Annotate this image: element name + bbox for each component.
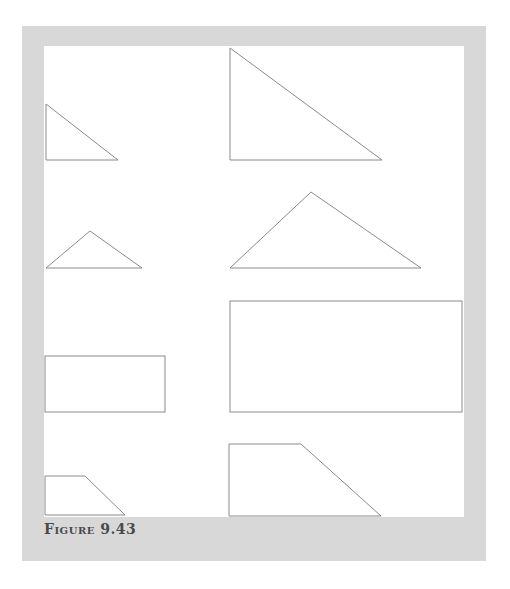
small-right-triangle — [46, 104, 118, 160]
small-rectangle — [45, 356, 165, 412]
large-right-triangle — [230, 48, 382, 160]
large-obtuse-triangle — [230, 192, 421, 268]
figure-shapes — [0, 0, 510, 589]
large-rectangle — [230, 301, 462, 412]
small-obtuse-triangle — [46, 231, 142, 268]
small-trapezoid — [45, 476, 125, 515]
figure-caption: Figure 9.43 — [44, 521, 136, 537]
large-trapezoid — [229, 444, 381, 516]
